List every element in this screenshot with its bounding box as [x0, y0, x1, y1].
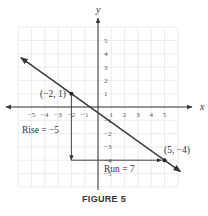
svg-text:2: 2: [123, 111, 127, 119]
coordinate-plane: xy −5−4−3−2−112345−5−4−3−2−112345 (−2, 1…: [0, 0, 208, 190]
point-label-b: (5, −4): [164, 145, 190, 156]
svg-text:−3: −3: [54, 111, 62, 119]
y-axis-label: y: [95, 4, 101, 15]
svg-text:3: 3: [136, 111, 140, 119]
svg-text:−4: −4: [41, 111, 49, 119]
svg-text:−1: −1: [81, 111, 89, 119]
svg-text:1: 1: [104, 90, 108, 98]
svg-text:2: 2: [104, 77, 108, 85]
svg-text:4: 4: [149, 111, 153, 119]
point-label-a: (−2, 1): [40, 89, 66, 100]
svg-text:−5: −5: [28, 111, 36, 119]
svg-text:3: 3: [104, 64, 108, 72]
x-axis-label: x: [199, 101, 205, 112]
data-point: [69, 92, 73, 96]
run-label: Run = 7: [104, 164, 135, 174]
svg-text:5: 5: [163, 111, 167, 119]
svg-text:−2: −2: [104, 130, 112, 138]
data-point: [163, 158, 167, 162]
rise-label: Rise = −5: [22, 125, 59, 135]
figure-caption: FIGURE 5: [0, 194, 208, 204]
svg-text:4: 4: [104, 50, 108, 58]
svg-text:5: 5: [104, 37, 108, 45]
svg-text:−3: −3: [104, 143, 112, 151]
